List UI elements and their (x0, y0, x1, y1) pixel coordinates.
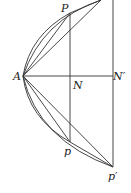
parabola-diagram: A P N N′ p p′ (0, 0, 131, 193)
label-N: N (72, 79, 83, 92)
label-p-prime: p′ (108, 170, 118, 183)
label-p: p (64, 145, 71, 158)
label-N-prime: N′ (112, 70, 126, 83)
chord-P-top (70, 0, 101, 13)
label-A: A (12, 70, 21, 83)
chord-A-p (23, 76, 70, 142)
label-P: P (60, 2, 69, 15)
chord-A-P (23, 13, 70, 76)
parabola-arc (23, 0, 113, 167)
inner-arc (23, 13, 70, 142)
